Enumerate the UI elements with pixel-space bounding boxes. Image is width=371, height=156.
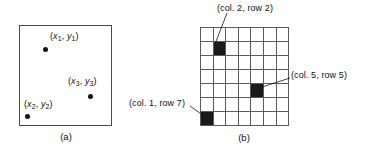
grid-cell: [201, 98, 214, 112]
grid-cell-filled-col1-row7: [201, 112, 214, 126]
data-point-2-label: (x2, y2): [24, 99, 53, 109]
grid-cell: [277, 84, 290, 98]
grid-cell: [239, 98, 252, 112]
grid-cell: [239, 42, 252, 56]
grid-cell: [251, 28, 264, 42]
grid-cell: [264, 70, 277, 84]
data-point-3-dot: [88, 94, 93, 99]
grid-cell: [277, 70, 290, 84]
data-point-1-dot: [43, 47, 48, 52]
grid-cell: [226, 98, 239, 112]
grid-cell: [214, 98, 227, 112]
callout-col5-row5: (col. 5, row 5): [291, 70, 347, 80]
grid-cell: [239, 84, 252, 98]
grid-cell: [239, 70, 252, 84]
grid-cell: [264, 84, 277, 98]
grid-cell: [251, 56, 264, 70]
grid-cell: [239, 56, 252, 70]
grid-cell: [226, 42, 239, 56]
grid-cell: [239, 112, 252, 126]
grid-cell: [251, 70, 264, 84]
grid-cell-filled-col2-row2: [214, 42, 227, 56]
grid-cell: [251, 98, 264, 112]
grid-cell: [226, 112, 239, 126]
grid-cell: [214, 84, 227, 98]
grid-cell-filled-col5-row5: [251, 84, 264, 98]
grid-cell: [214, 70, 227, 84]
grid-cell: [214, 28, 227, 42]
grid-cell: [264, 56, 277, 70]
grid-cell: [251, 112, 264, 126]
grid-cell: [277, 56, 290, 70]
figure-container: (x1, y1) (x2, y2) (x3, y3) (a): [0, 0, 371, 156]
grid-cell: [277, 98, 290, 112]
data-point-2-dot: [25, 114, 30, 119]
grid-cell: [277, 42, 290, 56]
panel-b-caption: (b): [223, 132, 265, 143]
panel-a-caption: (a): [45, 131, 87, 142]
data-point-3-label: (x3, y3): [68, 76, 97, 86]
grid-cell: [201, 70, 214, 84]
grid-cell: [201, 42, 214, 56]
grid-cell: [226, 70, 239, 84]
callout-col1-row7: (col. 1, row 7): [129, 98, 185, 108]
grid-cell: [226, 56, 239, 70]
grid-cell: [264, 42, 277, 56]
grid-cell: [277, 28, 290, 42]
grid-cell: [239, 28, 252, 42]
panel-b-grid: [200, 27, 289, 126]
grid-cell: [201, 56, 214, 70]
grid-cell: [214, 56, 227, 70]
grid-cell: [264, 98, 277, 112]
data-point-1-label: (x1, y1): [50, 31, 79, 41]
grid-cell: [251, 42, 264, 56]
grid-cell: [201, 84, 214, 98]
grid-cell: [226, 84, 239, 98]
grid-cell: [264, 112, 277, 126]
grid-cell: [264, 28, 277, 42]
callout-col2-row2: (col. 2, row 2): [217, 3, 273, 13]
grid-cell: [226, 28, 239, 42]
grid-cell: [277, 112, 290, 126]
grid-cell: [214, 112, 227, 126]
grid-cell: [201, 28, 214, 42]
